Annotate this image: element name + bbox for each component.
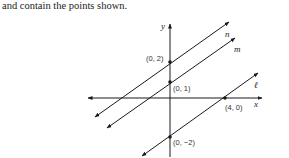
label-point-0-neg2: (0, −2) (173, 138, 195, 147)
coordinate-diagram: (0, 2) (0, 1) (4, 0) (0, −2) y x n m ℓ (0, 0, 289, 158)
y-axis-label: y (160, 21, 165, 31)
point-4-0 (223, 96, 227, 100)
x-axis-label: x (253, 99, 258, 109)
line-n (95, 22, 229, 117)
label-point-0-1: (0, 1) (173, 84, 191, 93)
label-line-n: n (225, 29, 230, 39)
point-0-neg2 (168, 135, 172, 139)
label-line-m: m (234, 44, 241, 54)
label-line-l: ℓ (254, 80, 258, 90)
line-l (142, 73, 258, 156)
label-point-4-0: (4, 0) (225, 103, 243, 112)
point-0-2 (168, 60, 172, 64)
point-0-1 (168, 80, 172, 84)
label-point-0-2: (0, 2) (146, 54, 164, 63)
